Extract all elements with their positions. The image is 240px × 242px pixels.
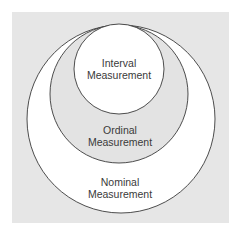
nominal-label-line1: Nominal bbox=[101, 176, 140, 188]
nominal-label-line2: Measurement bbox=[88, 188, 152, 200]
ordinal-label-line1: Ordinal bbox=[103, 124, 137, 136]
interval-label-line2: Measurement bbox=[87, 69, 151, 81]
ordinal-label-line2: Measurement bbox=[88, 136, 152, 148]
interval-label-line1: Interval bbox=[102, 57, 136, 69]
measurement-levels-diagram: Interval Measurement Ordinal Measurement… bbox=[0, 0, 240, 242]
